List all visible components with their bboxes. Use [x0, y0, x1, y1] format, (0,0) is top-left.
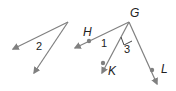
point-l-dot	[150, 68, 154, 72]
ray-gl	[129, 22, 157, 84]
point-h-label: H	[83, 25, 92, 39]
point-h-dot	[87, 39, 91, 43]
angle-2-figure: 2	[13, 22, 68, 73]
angle-2-label: 2	[36, 40, 42, 52]
point-k-label: K	[108, 64, 117, 78]
vertex-g-label: G	[130, 6, 139, 20]
point-k-dot	[101, 61, 105, 65]
angle-3-label: 3	[124, 43, 130, 55]
angle-1-label: 1	[101, 37, 107, 49]
point-l-label: L	[161, 62, 168, 76]
angle-g-figure: G H K L 1 3	[75, 6, 168, 84]
angle-diagram: 2 G H K L 1 3	[0, 0, 176, 91]
